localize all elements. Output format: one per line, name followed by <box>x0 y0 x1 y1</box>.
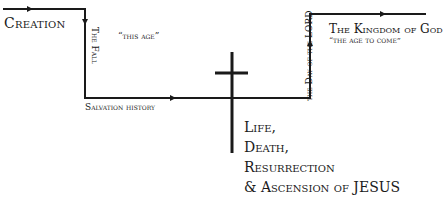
jesus-line-death: Death, <box>244 137 400 157</box>
kingdom-of-god-label: The Kingdom of God <box>329 23 443 35</box>
arrow-right-icon <box>380 11 386 17</box>
jesus-line-life: Life, <box>244 117 400 137</box>
jesus-events-label: Life, Death, Resurrection & Ascension of… <box>244 117 400 197</box>
salvation-history-label: Salvation history <box>85 103 155 112</box>
this-age-label: “this age” <box>118 32 159 41</box>
creation-label: Creation <box>4 16 65 30</box>
jesus-line-ascension: & Ascension of JESUS <box>244 177 400 197</box>
arrow-right-icon <box>170 95 176 101</box>
jesus-line-resurrection: Resurrection <box>244 157 400 177</box>
the-fall-label: The Fall <box>90 27 99 64</box>
day-of-the-lord-label: the Day of the LORD <box>305 16 314 101</box>
arrow-down-icon <box>82 19 88 25</box>
age-to-come-label: “the age to come” <box>329 37 401 45</box>
arrow-right-icon <box>27 6 33 12</box>
